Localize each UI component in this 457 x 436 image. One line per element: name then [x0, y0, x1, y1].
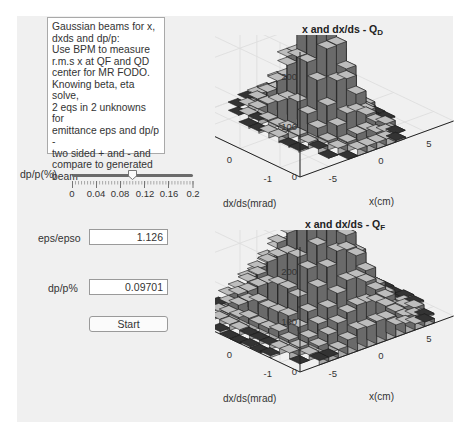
plot-qf-title-text: x and dx/ds - Q — [305, 218, 380, 230]
svg-text:5: 5 — [426, 333, 431, 344]
svg-text:5: 5 — [426, 138, 431, 149]
slider-tick-0.04: 0.04 — [87, 188, 106, 199]
slider-ticks — [72, 181, 194, 188]
histogram-bars — [215, 230, 434, 365]
svg-text:100: 100 — [281, 316, 297, 327]
svg-text:-5: -5 — [329, 173, 337, 184]
svg-text:0: 0 — [378, 350, 383, 361]
dpp-slider-thumb[interactable] — [128, 170, 137, 180]
svg-text:-1: -1 — [264, 173, 272, 184]
dpp-value-field[interactable]: 0.09701 — [89, 279, 168, 295]
slider-label: dp/p(%) — [20, 168, 57, 180]
slider-tick-0.12: 0.12 — [136, 188, 155, 199]
svg-text:x(cm): x(cm) — [369, 196, 394, 207]
svg-text:0: 0 — [292, 171, 297, 182]
svg-text:-1: -1 — [264, 368, 272, 379]
dpp-label: dp/p% — [48, 282, 78, 294]
svg-text:0: 0 — [227, 349, 232, 360]
plot-qd-axes[interactable]: 010020010-1-505dx/ds(mrad)x(cm) — [215, 35, 457, 215]
start-button[interactable]: Start — [89, 316, 168, 332]
histogram-bars — [228, 35, 406, 160]
eps-label: eps/epso — [38, 232, 81, 244]
svg-text:200: 200 — [281, 266, 297, 277]
svg-text:100: 100 — [281, 121, 297, 132]
svg-text:x(cm): x(cm) — [369, 391, 394, 402]
svg-text:0: 0 — [378, 155, 383, 166]
svg-text:0: 0 — [227, 154, 232, 165]
eps-value-field[interactable]: 1.126 — [89, 229, 168, 245]
plot-qd-title-text: x and dx/ds - Q — [302, 23, 377, 35]
svg-text:-5: -5 — [329, 368, 337, 379]
slider-tick-0.2: 0.2 — [186, 188, 199, 199]
svg-text:200: 200 — [281, 71, 297, 82]
slider-tick-0.08: 0.08 — [111, 188, 130, 199]
slider-tick-0.16: 0.16 — [160, 188, 179, 199]
slider-tick-0: 0 — [69, 188, 74, 199]
svg-text:0: 0 — [292, 366, 297, 377]
svg-text:dx/ds(mrad): dx/ds(mrad) — [223, 393, 276, 404]
description-text: Gaussian beams for x, dxds and dp/p: Use… — [47, 17, 165, 154]
svg-text:dx/ds(mrad): dx/ds(mrad) — [223, 198, 276, 209]
plot-qf-axes[interactable]: 010020010-1-505dx/ds(mrad)x(cm) — [215, 230, 457, 415]
